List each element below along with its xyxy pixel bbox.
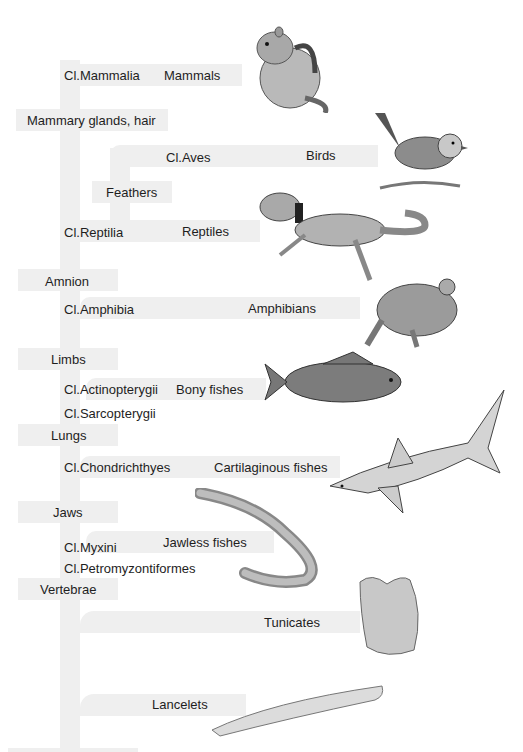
trait-vertebrae-label: Vertebrae <box>40 582 96 597</box>
birds-band <box>110 145 378 167</box>
trait-feathers-label: Feathers <box>106 185 157 200</box>
common-mammals-label: Mammals <box>164 68 220 83</box>
class-sarcopterygii-label: Cl.Sarcopterygii <box>64 406 156 421</box>
class-petromyzontiformes-label: Cl.Petromyzontiformes <box>64 561 195 576</box>
root-line <box>8 748 138 752</box>
class-mammalia-label: Cl.Mammalia <box>64 68 140 83</box>
common-amphibians-label: Amphibians <box>248 301 316 316</box>
trait-jaws-label: Jaws <box>53 505 83 520</box>
trait-lungs-label: Lungs <box>51 428 86 443</box>
lancelet-icon <box>210 682 385 737</box>
class-actinopterygii-label: Cl.Actinopterygii <box>64 382 158 397</box>
class-myxini-label: Cl.Myxini <box>64 540 117 555</box>
tunicate-icon <box>352 572 427 657</box>
class-aves-label: Cl.Aves <box>166 150 211 165</box>
common-bony-fishes-label: Bony fishes <box>176 382 243 397</box>
class-chondrichthyes-label: Cl.Chondrichthyes <box>64 460 170 475</box>
common-birds-label: Birds <box>306 148 336 163</box>
common-reptiles-label: Reptiles <box>182 224 229 239</box>
trait-mammary-glands-hair-label: Mammary glands, hair <box>27 113 156 128</box>
trait-amnion-label: Amnion <box>45 274 89 289</box>
class-reptilia-label: Cl.Reptilia <box>64 225 123 240</box>
common-cartilaginous-fishes-label: Cartilaginous fishes <box>214 460 327 475</box>
common-lancelets-label: Lancelets <box>152 697 208 712</box>
chipmunk-icon <box>245 18 335 113</box>
trait-limbs-label: Limbs <box>51 352 86 367</box>
common-tunicates-label: Tunicates <box>264 615 320 630</box>
class-amphibia-label: Cl.Amphibia <box>64 302 134 317</box>
lamprey-icon <box>195 488 330 588</box>
shark-icon <box>328 388 508 520</box>
frog-icon <box>362 265 472 350</box>
